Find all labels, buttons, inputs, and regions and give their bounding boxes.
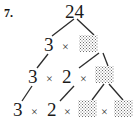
multiplication-sign: × [64,106,71,118]
multiplication-sign: × [62,41,69,53]
tree-node-l4-factor-3: 3 [13,100,23,119]
hidden-factor-box [78,100,97,117]
tree-node-l4-factor-2: 2 [47,100,57,119]
hidden-factor-box [95,66,114,83]
tree-node-l3-factor-3: 3 [28,67,38,86]
tree-node-l2-factor-3: 3 [44,35,54,54]
exercise-number-label: 7. [4,7,13,19]
hidden-factor-box [79,35,98,52]
hidden-factor-box [114,100,133,117]
edge-l3-box-to-l4-box2 [109,84,123,100]
edge-l2-box-to-l3-box [103,53,108,66]
multiplication-sign: × [80,73,87,85]
factor-tree-figure: 7. 24 3 × 3 × 2 × 3 × 2 × × [0,0,135,128]
multiplication-sign: × [101,106,108,118]
edge-l3-left-to-l4-left [22,86,32,101]
edge-l3-mid-to-l4-mid [60,86,74,101]
edge-l3-box-to-l4-box1 [92,84,104,100]
tree-node-l3-factor-2: 2 [62,67,72,86]
multiplication-sign: × [31,106,38,118]
multiplication-sign: × [46,73,53,85]
tree-node-root-24: 24 [65,2,84,21]
edge-l2-left-to-l3-left [37,54,48,68]
